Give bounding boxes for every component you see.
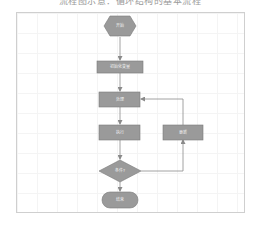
node-decision[interactable]: 条件? [99,160,141,182]
flowchart: 开始 初始化变量 处理 执行 更新 条件? 结束 [0,0,257,225]
node-step1-label: 处理 [116,96,124,102]
node-update-label: 更新 [179,129,187,135]
node-start[interactable]: 开始 [104,16,136,36]
node-decision-label: 条件? [115,167,125,173]
edge-update-step1 [141,99,183,125]
node-init-label: 初始化变量 [110,63,130,69]
node-step1[interactable]: 处理 [99,92,140,107]
edge-decision-update [141,140,183,171]
node-step2[interactable]: 执行 [99,125,140,140]
node-end-label: 结束 [116,196,124,202]
node-step2-label: 执行 [116,129,124,135]
node-start-label: 开始 [116,22,124,28]
node-init[interactable]: 初始化变量 [97,61,143,73]
node-end[interactable]: 结束 [102,192,138,208]
node-update[interactable]: 更新 [163,125,203,140]
